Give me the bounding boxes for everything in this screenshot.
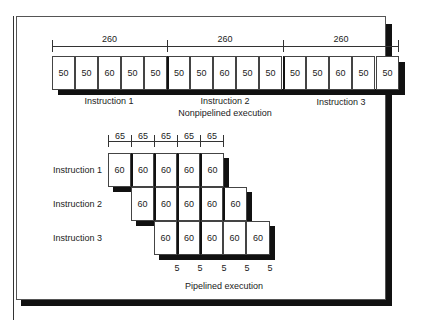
stage-cell: 60 [154, 187, 177, 221]
duration-dimension-3: 260 [283, 37, 399, 51]
left-margin-rule [13, 16, 14, 320]
stage-cell: 60 [108, 153, 131, 187]
stage-cell: 60 [154, 221, 177, 255]
stage-time-label: 65 [138, 131, 148, 141]
latch-overhead-label: 5 [267, 263, 272, 273]
latch-overhead-label: 5 [221, 263, 226, 273]
instruction-2-label: Instruction 2 [200, 96, 249, 106]
stage-cell: 60 [98, 56, 121, 90]
pipelined-title: Pipelined execution [185, 281, 263, 291]
duration-label: 260 [99, 34, 120, 44]
stage-cell: 50 [144, 56, 167, 90]
stage-cell: 60 [200, 153, 224, 187]
instruction-3-label: Instruction 3 [316, 97, 365, 107]
latch-overhead-label: 5 [197, 263, 202, 273]
stage-cell: 60 [154, 153, 177, 187]
stage-time-label: 65 [115, 131, 125, 141]
stage-cell: 60 [200, 221, 223, 255]
stage-cell: 50 [121, 56, 144, 90]
stage-cell: 60 [329, 56, 352, 90]
stage-time-label: 65 [184, 131, 194, 141]
stage-cell: 60 [177, 187, 200, 221]
stage-cell: 50 [236, 56, 259, 90]
stage-cell: 60 [177, 221, 200, 255]
stage-cell: 50 [376, 56, 399, 90]
row-3-shadow-right [270, 226, 275, 260]
stage-cell: 50 [352, 56, 375, 90]
pipelined-instruction-1-label: Instruction 1 [53, 165, 102, 175]
stage-cell: 60 [213, 56, 236, 90]
latch-overhead-label: 5 [244, 263, 249, 273]
stage-cell: 50 [190, 56, 213, 90]
pipelined-instruction-3-label: Instruction 3 [53, 233, 102, 243]
nonpipelined-shadow-right [399, 62, 405, 95]
pipelined-instruction-2-label: Instruction 2 [53, 199, 102, 209]
stage-cell: 50 [283, 56, 306, 90]
stage-time-label: 65 [207, 131, 217, 141]
stage-cell: 60 [131, 187, 154, 221]
duration-dimension-1: 260 [52, 37, 167, 51]
nonpipelined-title: Nonpipelined execution [178, 108, 272, 118]
stage-cell: 50 [167, 56, 190, 90]
duration-dimension-2: 260 [167, 37, 283, 51]
stage-time-label: 65 [161, 131, 171, 141]
stage-cell: 60 [223, 187, 247, 221]
stage-cell: 60 [177, 153, 200, 187]
stage-cell: 50 [306, 56, 329, 90]
stage-cell: 60 [200, 187, 223, 221]
stage-cell: 60 [223, 221, 246, 255]
stage-cell: 60 [246, 221, 270, 255]
stage-cell: 50 [75, 56, 98, 90]
row-3-shadow-bottom [159, 255, 275, 260]
stage-cell: 50 [259, 56, 282, 90]
instruction-1-label: Instruction 1 [84, 96, 133, 106]
frame-shadow-bottom [21, 299, 392, 306]
latch-overhead-label: 5 [174, 263, 179, 273]
duration-label: 260 [214, 34, 235, 44]
stage-cell: 60 [131, 153, 154, 187]
duration-label: 260 [330, 34, 351, 44]
stage-cell: 50 [52, 56, 75, 90]
